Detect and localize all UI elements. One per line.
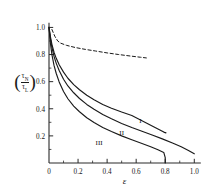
tau-l: τL [21, 82, 30, 93]
tau-ratio: τNτL [21, 72, 30, 92]
paren-close: ) [29, 74, 35, 90]
curve-curve-III [49, 27, 165, 163]
x-tick-label: 0.4 [103, 168, 112, 176]
x-axis-label: ε [123, 176, 127, 186]
figure-container: (τNτL) 00.20.40.60.81.00.20.40.60.81.0 I… [0, 0, 217, 194]
y-tick-label: 0.2 [36, 133, 45, 141]
curve-group [49, 27, 194, 163]
x-tick-label: 0.2 [74, 168, 83, 176]
y-axis-label: (τNτL) [3, 72, 47, 92]
tau-n: τN [21, 72, 30, 82]
curve-label-II: II [119, 129, 124, 137]
curve-dashed-upper [52, 29, 146, 57]
x-tick-label: 1.0 [190, 168, 199, 176]
axes-group [49, 23, 201, 163]
y-tick-label: 1.0 [36, 24, 45, 32]
curve-label-III: III [96, 139, 104, 147]
x-axis-label-group: ε [123, 176, 127, 186]
x-tick-label: 0.6 [132, 168, 141, 176]
y-tick-label: 0.4 [36, 106, 45, 114]
x-tick-label: 0.8 [161, 168, 170, 176]
chart-plot-area: 00.20.40.60.81.00.20.40.60.81.0 IIIIII ε [0, 0, 217, 194]
tick-label-group: 00.20.40.60.81.00.20.40.60.81.0 [36, 24, 199, 175]
y-tick-label: 0.8 [36, 51, 45, 59]
curve-label-group: IIIIII [96, 117, 143, 147]
x-tick-label: 0 [47, 168, 51, 176]
